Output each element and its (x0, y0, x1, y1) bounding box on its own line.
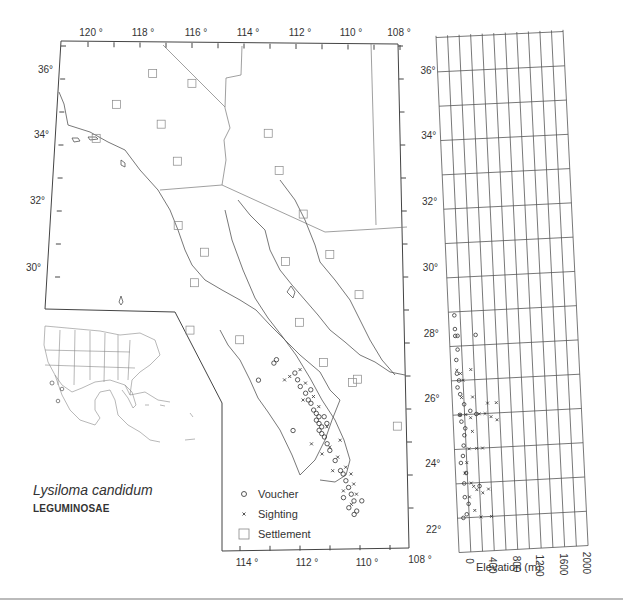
sighting-marker (342, 489, 345, 492)
settlement-marker (186, 326, 194, 334)
elevation-sighting-point (487, 488, 490, 491)
bottom-longitude-label: 112 ° (296, 557, 319, 568)
elevation-voucher-point (455, 372, 459, 376)
elevation-grid-hline (444, 203, 572, 209)
right-latitude-label: 36° (420, 65, 435, 76)
voucher-marker (352, 499, 356, 503)
sonora-coast-detail (280, 180, 395, 375)
settlement-square-icon (236, 528, 252, 540)
sighting-cross-icon (236, 509, 252, 519)
settlement-marker (275, 166, 283, 174)
sighting-marker (321, 452, 324, 455)
sighting-marker (302, 399, 305, 402)
settlement-marker (282, 258, 290, 266)
settlement-marker (157, 120, 165, 128)
elevation-grid-vline (551, 30, 576, 546)
right-latitude-label: 32° (422, 196, 437, 207)
elevation-voucher-point (458, 392, 462, 396)
top-longitude-label: 120 ° (79, 27, 102, 38)
settlement-marker (149, 70, 157, 78)
sighting-marker (352, 483, 355, 486)
top-longitude-label: 116 ° (185, 27, 208, 38)
elevation-grid-vline (436, 36, 459, 553)
elevation-grid-vline (540, 31, 565, 547)
voucher-marker (295, 378, 299, 382)
voucher-marker (349, 492, 353, 496)
inset-state-lines (45, 330, 135, 385)
mainland-gulf-coast (238, 200, 405, 375)
bottom-longitude-label: 114 ° (236, 557, 259, 568)
voucher-circle-icon (236, 489, 252, 499)
voucher-marker (341, 495, 345, 499)
sighting-marker (283, 378, 286, 381)
legend-label-voucher: Voucher (258, 488, 298, 500)
legend-label-settlement: Settlement (258, 528, 311, 540)
us-mexico-border (160, 185, 407, 232)
elevation-voucher-point (459, 461, 463, 465)
elevation-voucher-point (463, 495, 467, 499)
settlement-marker (201, 248, 209, 256)
elevation-voucher-point (453, 314, 457, 318)
elevation-grid-hline (454, 443, 583, 450)
elevation-grid-vline (494, 33, 518, 549)
legend-label-sighting: Sighting (258, 508, 298, 520)
elevation-axis-title: Elevation (m) (476, 561, 541, 573)
elevation-grid-vline (528, 31, 553, 547)
voucher-marker (328, 448, 332, 452)
top-longitude-label: 110 ° (340, 27, 363, 38)
settlement-marker (295, 318, 303, 326)
elevation-voucher-point (465, 512, 469, 516)
elevation-grid-hline (436, 32, 563, 38)
voucher-marker (346, 485, 350, 489)
coastline (59, 92, 405, 482)
right-latitude-label: 24° (425, 458, 440, 469)
elevation-grid-hline (447, 271, 575, 277)
legend-item-voucher: Voucher (236, 484, 311, 504)
elevation-grid-hline (438, 66, 565, 72)
elevation-sighting-point (481, 491, 484, 494)
elevation-voucher-point (456, 334, 460, 338)
elevation-tick-label: 2000 (581, 552, 592, 575)
voucher-marker (309, 401, 313, 405)
sighting-marker (355, 493, 358, 496)
inset-voucher-point (56, 399, 60, 403)
baja-gulf-coast (225, 210, 350, 482)
family-name: LEGUMINOSAE (33, 503, 110, 514)
elevation-grid-hline (441, 134, 568, 140)
sighting-marker (310, 442, 313, 445)
elevation-tick-label: 1600 (558, 553, 569, 576)
inset-us-outline (44, 326, 160, 395)
voucher-marker (347, 506, 351, 510)
page-bottom-rule (0, 598, 623, 600)
elevation-grid-hline (459, 546, 588, 553)
voucher-marker (298, 384, 302, 388)
sighting-marker (349, 472, 352, 475)
elevation-sighting-point (460, 396, 463, 399)
settlement-marker (326, 250, 334, 258)
voucher-marker (309, 388, 313, 392)
elevation-voucher-point (474, 333, 478, 337)
voucher-marker (344, 479, 348, 483)
voucher-marker (325, 442, 329, 446)
left-latitude-label: 30° (26, 262, 41, 273)
left-latitude-label: 34° (34, 129, 49, 140)
elevation-sighting-point (455, 369, 458, 372)
top-longitude-label: 112 ° (289, 27, 312, 38)
bottom-longitude-label: 110 ° (356, 557, 379, 568)
sighting-marker (350, 503, 353, 506)
sighting-marker (339, 439, 342, 442)
elevation-sighting-point (475, 488, 478, 491)
island-4 (119, 296, 123, 305)
elevation-voucher-point (453, 327, 457, 331)
elevation-sighting-point (469, 416, 472, 419)
settlement-marker (113, 100, 121, 108)
elevation-grid-vline (563, 30, 588, 546)
settlement-marker (348, 379, 356, 387)
right-latitude-label: 28° (424, 328, 439, 339)
settlement-marker (191, 279, 199, 287)
sighting-marker (331, 469, 334, 472)
settlement-marker (355, 291, 363, 299)
elevation-tick-label: 0 (464, 558, 475, 564)
main-map-frame (45, 41, 409, 551)
elevation-voucher-point (455, 358, 459, 362)
